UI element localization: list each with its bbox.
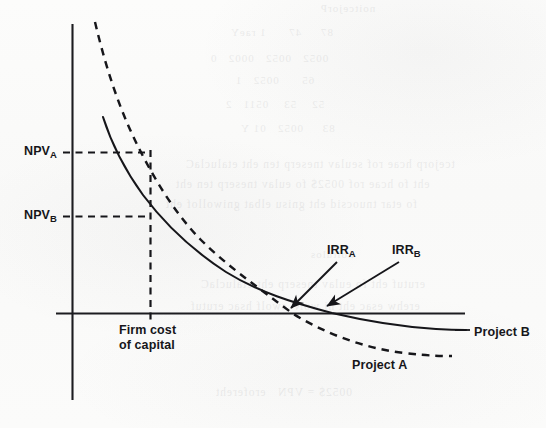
firm-cost-of-capital-label-line1: Firm cost xyxy=(119,323,176,337)
irr-a-label: IRRA xyxy=(327,243,356,258)
figure-page: noitcejorP 87 47 1 raeY 0052 0052 0002 0… xyxy=(0,0,546,428)
reference-lines xyxy=(63,150,151,322)
firm-cost-of-capital-label-line2: of capital xyxy=(119,338,175,352)
npv-profile-figure xyxy=(0,0,546,428)
firm-cost-of-capital-label: Firm costof capital xyxy=(119,323,176,353)
irr-b-label: IRRB xyxy=(392,243,421,258)
npv-b-label-subscript: B xyxy=(50,213,57,224)
irr-b-arrow xyxy=(327,262,399,306)
irr-b-label-subscript: B xyxy=(414,248,421,259)
project-b-label: Project B xyxy=(474,325,530,340)
irr-a-arrow xyxy=(291,262,337,308)
project-b-curve xyxy=(103,117,466,330)
npv-a-label: NPVA xyxy=(24,144,57,159)
npv-a-label-subscript: A xyxy=(50,149,57,160)
project-a-curve xyxy=(95,22,452,356)
axes xyxy=(56,24,465,400)
irr-a-label-text: IRR xyxy=(327,243,349,257)
project-a-label: Project A xyxy=(352,358,407,373)
npv-a-label-text: NPV xyxy=(24,144,50,158)
irr-annotation-arrows xyxy=(291,262,399,308)
irr-a-label-subscript: A xyxy=(349,248,356,259)
irr-b-label-text: IRR xyxy=(392,243,414,257)
npv-b-label-text: NPV xyxy=(24,208,50,222)
npv-b-label: NPVB xyxy=(24,208,57,223)
